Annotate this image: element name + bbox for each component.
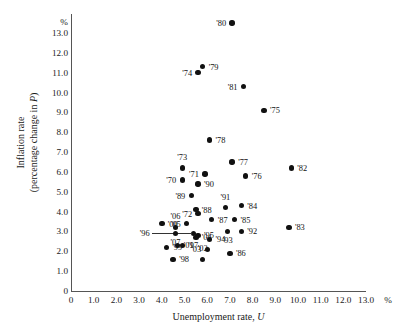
data-point-label: '89 <box>175 191 185 200</box>
data-point <box>229 20 234 25</box>
data-point-label: '72 <box>182 209 192 218</box>
data-point <box>207 137 212 142</box>
data-point <box>189 193 194 198</box>
data-point-label: '79 <box>209 62 219 71</box>
data-point <box>195 70 200 75</box>
data-point <box>180 165 185 170</box>
data-point <box>225 229 230 234</box>
data-point <box>159 221 164 226</box>
data-point-label: '04 <box>202 233 212 242</box>
data-point <box>173 225 178 230</box>
data-point <box>180 177 185 182</box>
data-point-label: '96 <box>140 229 150 238</box>
data-point <box>200 257 205 262</box>
data-point-label: '98 <box>179 255 189 264</box>
data-point-label: '90 <box>204 179 214 188</box>
data-point-label: '86 <box>236 249 246 258</box>
y-axis-title-line2: (percentage change in P) <box>27 33 40 253</box>
data-point <box>170 257 175 262</box>
data-point <box>184 221 189 226</box>
data-point <box>261 108 266 113</box>
data-point-label: '80 <box>216 19 226 28</box>
data-point-label: '06 <box>170 212 180 221</box>
data-point <box>200 64 205 69</box>
data-point-label: '85 <box>240 215 250 224</box>
data-point <box>243 173 248 178</box>
data-point-label: '78 <box>215 136 225 145</box>
data-point <box>173 231 178 236</box>
data-point-label: '75 <box>270 106 280 115</box>
data-point <box>232 217 237 222</box>
data-point <box>227 251 232 256</box>
data-point-label: '70 <box>166 175 176 184</box>
data-point <box>229 159 234 164</box>
data-point-label: '74 <box>182 68 192 77</box>
data-point <box>202 171 207 176</box>
data-point <box>223 205 228 210</box>
data-point <box>209 217 214 222</box>
phillips-curve-scatter-figure: 01.02.03.04.05.06.07.08.09.010.011.012.0… <box>0 0 393 336</box>
data-point-label: '84 <box>247 201 257 210</box>
data-point-label: '92 <box>247 227 257 236</box>
data-point <box>286 225 291 230</box>
data-point-label: '91 <box>220 193 230 202</box>
x-axis-unit-label: % <box>371 295 393 306</box>
data-point <box>205 247 210 252</box>
x-axis-title: Unemployment rate, U <box>71 311 366 323</box>
data-point-label: '77 <box>238 157 248 166</box>
data-point <box>195 181 200 186</box>
data-point-label: '83 <box>295 223 305 232</box>
data-point-label: '87 <box>218 215 228 224</box>
plot-area: '70'71'72'73'74'75'76'77'78'79'80'81'82'… <box>0 0 393 336</box>
data-point-label: '73 <box>177 153 187 162</box>
data-point <box>193 235 198 240</box>
y-axis-title-line1: Inflation rate <box>15 33 28 253</box>
data-point-label: '76 <box>252 171 262 180</box>
data-point-label: '94 <box>215 235 225 244</box>
data-point <box>289 165 294 170</box>
data-point-label: '07 <box>170 238 180 247</box>
leader-line-96 <box>152 233 192 234</box>
data-point-label: '03 <box>191 245 201 254</box>
data-point-label: '88 <box>202 205 212 214</box>
y-axis-title: Inflation rate (percentage change in P) <box>15 33 40 253</box>
data-point <box>193 207 198 212</box>
data-point-label: '81 <box>228 82 238 91</box>
data-point-label: '71 <box>189 169 199 178</box>
data-point <box>239 203 244 208</box>
data-point-label: '82 <box>297 163 307 172</box>
data-point <box>164 245 169 250</box>
data-point <box>239 229 244 234</box>
data-point <box>241 84 246 89</box>
